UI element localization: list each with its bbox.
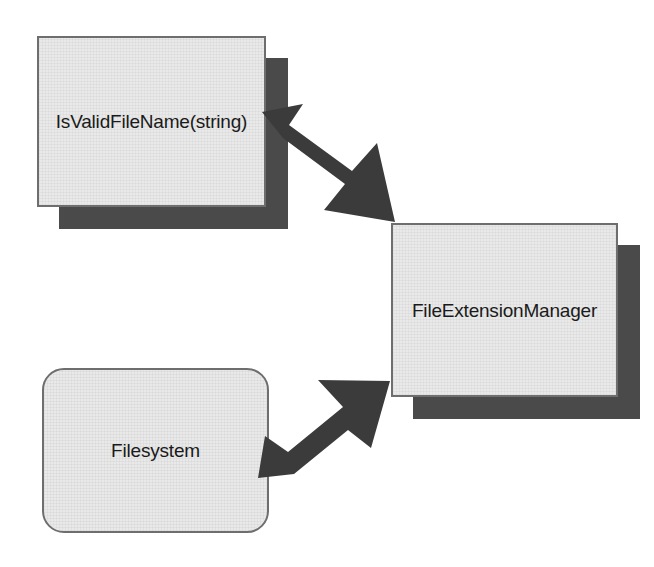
node-label-isvalidfilename: IsValidFileName(string) bbox=[56, 112, 247, 131]
node-fileextensionmanager[interactable]: FileExtensionManager bbox=[391, 223, 618, 397]
node-label-filesystem: Filesystem bbox=[111, 441, 200, 460]
connector-filesystem-to-fileextensionmanager-arrow[interactable] bbox=[258, 380, 390, 478]
node-isvalidfilename[interactable]: IsValidFileName(string) bbox=[37, 36, 266, 207]
node-filesystem[interactable]: Filesystem bbox=[42, 368, 269, 533]
node-label-fileextensionmanager: FileExtensionManager bbox=[412, 301, 597, 320]
diagram-canvas: IsValidFileName(string) FileExtensionMan… bbox=[0, 0, 654, 567]
